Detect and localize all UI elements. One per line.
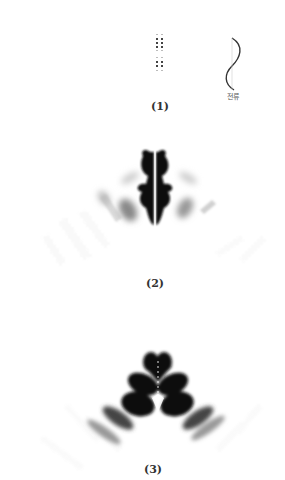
field-pattern-3 [0, 0, 285, 480]
caption-panel-3: (3) [133, 463, 173, 476]
